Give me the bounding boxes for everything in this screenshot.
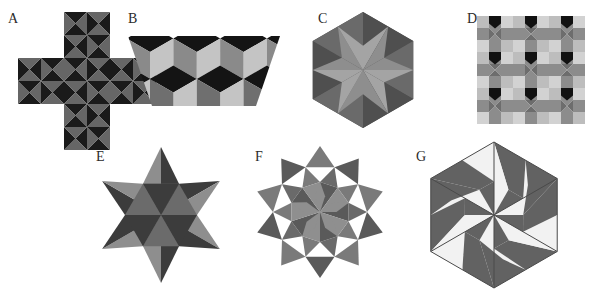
edge-square-right bbox=[501, 28, 513, 40]
corner-square bbox=[501, 112, 513, 124]
edge-square-left bbox=[513, 64, 525, 76]
corner-square bbox=[477, 52, 489, 64]
edge-square-right bbox=[573, 100, 585, 112]
figure-a-cross-pinwheel bbox=[18, 12, 138, 132]
edge-square-bottom bbox=[525, 76, 537, 88]
edge-square-right bbox=[537, 28, 549, 40]
edge-square-bottom bbox=[561, 112, 573, 124]
corner-square bbox=[549, 88, 561, 100]
edge-square-right bbox=[537, 64, 549, 76]
corner-square bbox=[537, 76, 549, 88]
figure-label-d: D bbox=[467, 12, 477, 26]
outer-star-point bbox=[257, 184, 282, 212]
figure-label-a: A bbox=[8, 12, 18, 26]
corner-square bbox=[513, 88, 525, 100]
edge-square-left bbox=[513, 100, 525, 112]
edge-square-bottom bbox=[489, 112, 501, 124]
edge-square-left bbox=[549, 64, 561, 76]
ring-triangle-outward bbox=[273, 203, 291, 222]
corner-square bbox=[549, 40, 561, 52]
edge-square-left bbox=[477, 100, 489, 112]
outer-star-point bbox=[358, 212, 383, 240]
corner-square bbox=[573, 52, 585, 64]
edge-square-left bbox=[549, 100, 561, 112]
figure-b-svg bbox=[128, 28, 280, 112]
edge-square-bottom bbox=[525, 112, 537, 124]
edge-square-left bbox=[549, 28, 561, 40]
edge-square-right bbox=[573, 28, 585, 40]
figure-e-hexagram bbox=[89, 143, 233, 287]
edge-square-right bbox=[573, 64, 585, 76]
figure-d-square-pinwheel-grid bbox=[477, 16, 595, 134]
outer-star-point bbox=[305, 257, 334, 278]
outer-star-point bbox=[257, 212, 282, 240]
figure-c-svg bbox=[301, 8, 425, 132]
corner-square bbox=[477, 88, 489, 100]
figure-d-svg bbox=[477, 16, 595, 134]
figure-c-hexagon-star bbox=[301, 8, 425, 132]
corner-square bbox=[549, 76, 561, 88]
figure-label-b: B bbox=[128, 12, 137, 26]
corner-square bbox=[501, 52, 513, 64]
corner-square bbox=[573, 40, 585, 52]
corner-square bbox=[549, 112, 561, 124]
corner-square bbox=[573, 112, 585, 124]
corner-square bbox=[513, 40, 525, 52]
corner-square bbox=[501, 76, 513, 88]
corner-square bbox=[501, 88, 513, 100]
corner-square bbox=[477, 16, 489, 28]
figure-b-trapezoid-rhombi bbox=[128, 28, 280, 112]
figure-f-svg bbox=[250, 142, 390, 282]
figure-e-svg bbox=[89, 143, 233, 287]
outer-star-point bbox=[358, 184, 383, 212]
corner-square bbox=[537, 88, 549, 100]
edge-square-left bbox=[477, 28, 489, 40]
edge-square-right bbox=[501, 64, 513, 76]
corner-square bbox=[537, 16, 549, 28]
outer-star-point bbox=[335, 240, 359, 266]
figure-g-svg bbox=[416, 137, 572, 293]
corner-square bbox=[513, 16, 525, 28]
corner-square bbox=[513, 112, 525, 124]
figure-board: A B C D E F G bbox=[0, 0, 610, 293]
outer-star-point bbox=[335, 159, 359, 185]
outer-star-point bbox=[305, 146, 334, 167]
corner-square bbox=[477, 112, 489, 124]
figure-a-svg bbox=[18, 12, 138, 132]
edge-square-bottom bbox=[525, 40, 537, 52]
edge-square-left bbox=[513, 28, 525, 40]
edge-square-bottom bbox=[489, 40, 501, 52]
edge-square-bottom bbox=[561, 76, 573, 88]
figure-f-ten-point-rosette bbox=[250, 142, 390, 282]
corner-square bbox=[573, 88, 585, 100]
rhombus-left bbox=[267, 39, 290, 80]
edge-square-bottom bbox=[489, 76, 501, 88]
corner-square bbox=[501, 40, 513, 52]
corner-square bbox=[537, 112, 549, 124]
corner-square bbox=[501, 16, 513, 28]
edge-square-right bbox=[537, 100, 549, 112]
corner-square bbox=[573, 16, 585, 28]
edge-square-bottom bbox=[561, 40, 573, 52]
corner-square bbox=[537, 52, 549, 64]
corner-square bbox=[477, 76, 489, 88]
corner-square bbox=[513, 76, 525, 88]
ring-triangle-outward bbox=[349, 203, 367, 222]
corner-square bbox=[573, 76, 585, 88]
corner-square bbox=[549, 16, 561, 28]
corner-square bbox=[477, 40, 489, 52]
corner-square bbox=[549, 52, 561, 64]
corner-square bbox=[537, 40, 549, 52]
figure-g-hexagon-pinwheel bbox=[416, 137, 572, 293]
rhombus-right bbox=[267, 79, 290, 120]
corner-square bbox=[513, 52, 525, 64]
edge-square-left bbox=[477, 64, 489, 76]
edge-square-right bbox=[501, 100, 513, 112]
outer-star-point bbox=[281, 159, 305, 185]
outer-star-point bbox=[281, 240, 305, 266]
